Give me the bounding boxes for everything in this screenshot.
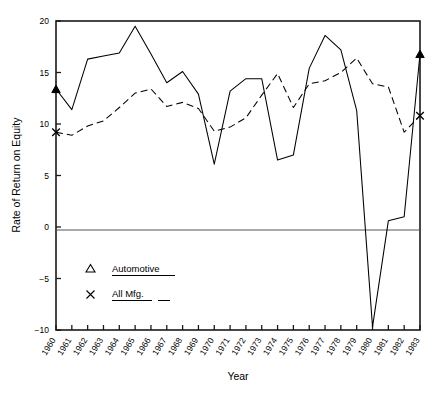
x-tick-label: 1970 [197,336,216,358]
x-tick-label: 1968 [166,336,185,358]
x-axis-title: Year [227,370,249,382]
x-tick-label: 1963 [87,336,106,358]
x-tick-label: 1966 [134,336,153,358]
x-tick-label: 1965 [118,336,137,358]
legend-label-automotive: Automotive [112,263,160,274]
chart-container: −10−505101520 19601961196219631964196519… [0,0,448,393]
x-tick-label: 1979 [340,336,359,358]
x-tick-label: 1964 [102,336,121,358]
x-tick-label: 1974 [261,336,280,358]
x-tick-label: 1978 [324,336,343,358]
y-tick-label: −5 [39,274,49,284]
x-tick-label: 1975 [277,336,296,358]
x-tick-label: 1967 [150,336,169,358]
x-tick-label: 1972 [229,336,248,358]
x-tick-label: 1981 [372,336,391,358]
plot-area-border [56,21,420,330]
y-tick-label: 15 [40,68,50,78]
x-tick-label: 1973 [245,336,264,358]
x-tick-label: 1962 [71,336,90,358]
line-chart: −10−505101520 19601961196219631964196519… [0,0,448,393]
x-tick-label: 1983 [403,336,422,358]
x-tick-label: 1969 [182,336,201,358]
x-tick-label: 1976 [292,336,311,358]
x-tick-label: 1980 [356,336,375,358]
x-tick-label: 1961 [55,336,74,358]
y-tick-label: 0 [44,222,49,232]
x-tick-label: 1982 [387,336,406,358]
y-tick-label: −10 [35,325,50,335]
y-tick-label: 5 [44,171,49,181]
legend-label-all-mfg: All Mfg. [112,288,144,299]
y-tick-label: 20 [40,16,50,26]
x-tick-label: 1971 [213,336,232,358]
y-tick-label: 10 [40,119,50,129]
x-tick-label: 1977 [308,336,327,358]
x-tick-label: 1960 [39,336,58,358]
y-axis-title: Rate of Return on Equity [10,117,22,233]
